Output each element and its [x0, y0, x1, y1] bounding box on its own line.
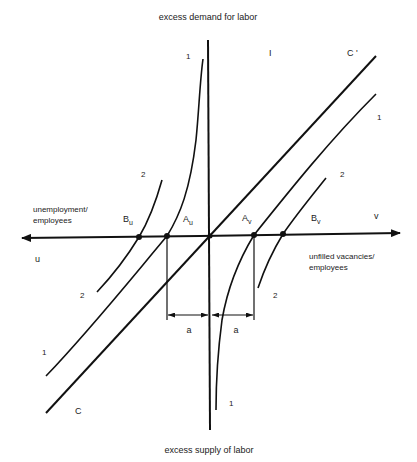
distance-label-left: a [186, 325, 191, 335]
label-unemployment: unemployment/ [33, 205, 88, 214]
label-curve2-upper-right: 2 [340, 170, 345, 179]
label-point-bu: Bu [123, 214, 133, 226]
distance-label-right: a [233, 325, 238, 335]
label-curve1-bottom: 1 [229, 399, 234, 408]
label-curve2-lower-right: 2 [273, 291, 278, 300]
label-point-av: Av [242, 213, 252, 225]
label-curve1-left: 1 [42, 348, 47, 357]
label-curve1-right: 1 [377, 113, 382, 122]
quadrant-label-i: I [269, 48, 272, 58]
axis-symbol-u: u [35, 254, 40, 264]
beveridge-curve-diagram: excess demand for labor excess supply of… [0, 0, 417, 462]
label-point-au: Au [183, 214, 193, 226]
horizontal-axis-right [200, 233, 400, 236]
label-c: C [75, 406, 82, 416]
label-curve2-lower-left: 2 [80, 291, 85, 300]
label-c-prime: C ' [347, 48, 358, 58]
point-bu [136, 234, 142, 240]
axis-symbol-v: v [374, 211, 379, 221]
horizontal-axis-left [22, 236, 200, 238]
title-excess-supply: excess supply of labor [164, 445, 253, 455]
label-vacancies-employees: employees [309, 263, 348, 272]
point-bv [280, 231, 286, 237]
origin-point [208, 234, 213, 239]
label-unemployment-employees: employees [33, 216, 72, 225]
label-unfilled-vacancies: unfilled vacancies/ [309, 252, 375, 261]
label-curve2-upper-left: 2 [141, 170, 146, 179]
title-excess-demand: excess demand for labor [159, 12, 258, 22]
label-curve1-top: 1 [186, 52, 191, 61]
label-point-bv: Bv [311, 213, 321, 225]
